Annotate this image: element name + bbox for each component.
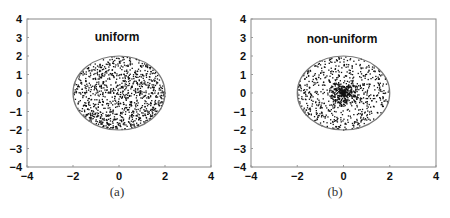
svg-text:−2: −2 — [9, 124, 22, 136]
svg-text:2: 2 — [387, 170, 393, 182]
y-axis-ticks: 43210−1−2−3−4 — [9, 13, 29, 173]
svg-text:2: 2 — [16, 50, 22, 62]
svg-text:2: 2 — [240, 50, 246, 62]
svg-text:−1: −1 — [233, 106, 246, 118]
svg-text:3: 3 — [240, 32, 246, 44]
svg-text:4: 4 — [433, 170, 440, 182]
caption: (b) — [315, 184, 355, 200]
svg-text:−4: −4 — [245, 170, 258, 182]
svg-text:1: 1 — [16, 69, 22, 81]
x-axis-ticks: −4−2024 — [245, 165, 440, 182]
svg-text:4: 4 — [16, 13, 23, 25]
svg-text:2: 2 — [162, 170, 168, 182]
plot-title: non-uniform — [307, 32, 378, 46]
svg-text:−2: −2 — [233, 124, 246, 136]
svg-text:−2: −2 — [67, 170, 80, 182]
svg-text:−4: −4 — [21, 170, 34, 182]
svg-text:4: 4 — [240, 13, 247, 25]
y-axis-ticks: 43210−1−2−3−4 — [233, 13, 253, 173]
svg-text:1: 1 — [240, 69, 246, 81]
plot-title: uniform — [95, 30, 140, 44]
svg-text:0: 0 — [116, 170, 122, 182]
panel-uniform: −4−2024 43210−1−2−3−4 uniform (a) — [0, 0, 225, 218]
caption: (a) — [97, 184, 137, 200]
svg-text:−3: −3 — [9, 143, 22, 155]
panel-non-uniform: −4−2024 43210−1−2−3−4 non-uniform (b) — [225, 0, 450, 218]
svg-text:0: 0 — [16, 87, 22, 99]
x-axis-ticks: −4−2024 — [21, 165, 215, 182]
svg-text:4: 4 — [208, 170, 215, 182]
svg-text:−4: −4 — [9, 161, 22, 173]
svg-text:−3: −3 — [233, 143, 246, 155]
svg-text:0: 0 — [240, 87, 246, 99]
svg-text:−1: −1 — [9, 106, 22, 118]
svg-text:0: 0 — [340, 170, 346, 182]
svg-text:−4: −4 — [233, 161, 246, 173]
svg-text:3: 3 — [16, 32, 22, 44]
svg-text:−2: −2 — [291, 170, 304, 182]
